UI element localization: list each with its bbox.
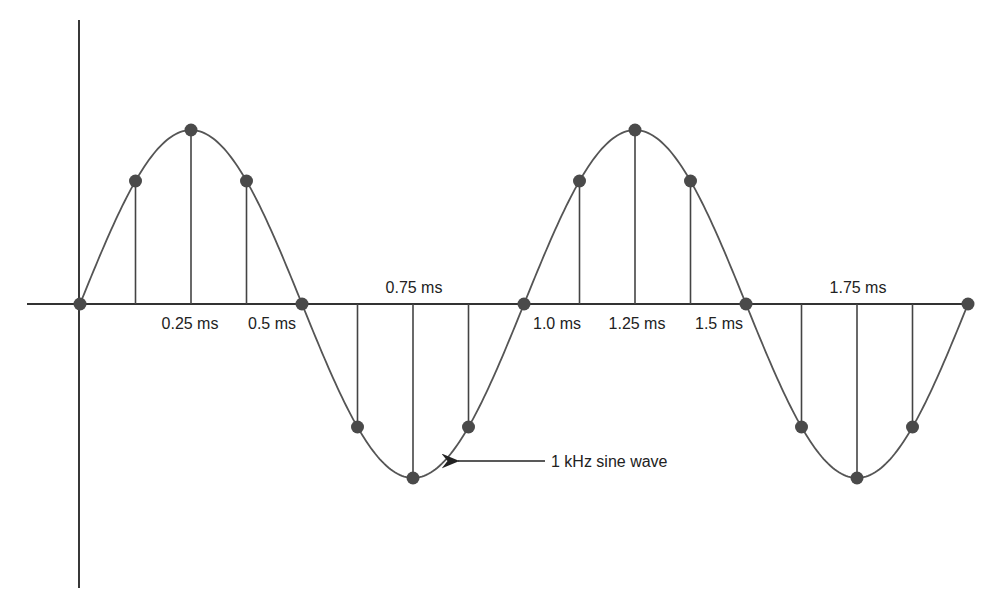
time-label: 0.25 ms bbox=[162, 315, 219, 332]
time-label: 0.5 ms bbox=[248, 315, 296, 332]
time-label: 1.0 ms bbox=[533, 315, 581, 332]
sample-point bbox=[351, 421, 364, 434]
sample-point bbox=[296, 298, 309, 311]
time-label: 1.75 ms bbox=[830, 279, 887, 296]
sample-point bbox=[573, 174, 586, 187]
sample-point bbox=[740, 298, 753, 311]
time-label: 0.75 ms bbox=[386, 279, 443, 296]
sample-point bbox=[851, 472, 864, 485]
time-label: 1.25 ms bbox=[609, 315, 666, 332]
sample-point bbox=[962, 298, 975, 311]
wave-label: 1 kHz sine wave bbox=[551, 453, 668, 470]
sample-point bbox=[74, 298, 87, 311]
sample-point bbox=[906, 421, 919, 434]
sample-point bbox=[129, 174, 142, 187]
sample-point bbox=[518, 298, 531, 311]
sample-point bbox=[407, 472, 420, 485]
sample-point bbox=[684, 174, 697, 187]
sample-point bbox=[185, 124, 198, 137]
sample-point bbox=[462, 421, 475, 434]
sample-point bbox=[795, 421, 808, 434]
sampled-sine-diagram: 0.25 ms0.5 ms0.75 ms1.0 ms1.25 ms1.5 ms1… bbox=[0, 0, 998, 615]
sample-point bbox=[240, 174, 253, 187]
time-label: 1.5 ms bbox=[695, 315, 743, 332]
sample-point bbox=[629, 124, 642, 137]
